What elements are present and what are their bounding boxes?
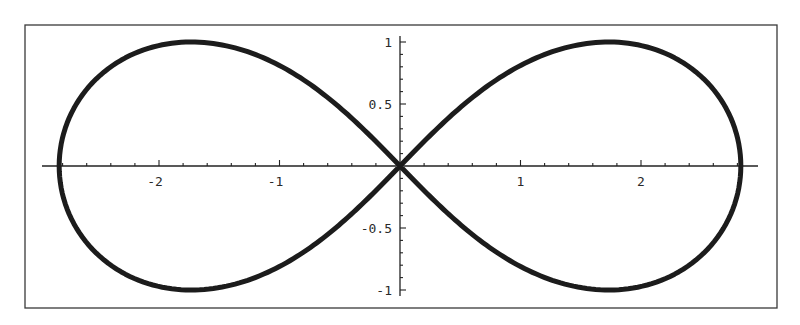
lemniscate-plot: -2-112 -1-0.50.51 bbox=[0, 0, 800, 325]
x-tick-label: 1 bbox=[517, 174, 525, 189]
chart-container: -2-112 -1-0.50.51 bbox=[0, 0, 800, 325]
x-tick-label: 2 bbox=[637, 174, 645, 189]
y-tick-label: -1 bbox=[376, 283, 392, 298]
x-axis-tick-labels: -2-112 bbox=[147, 174, 645, 189]
y-tick-label: -0.5 bbox=[361, 221, 392, 236]
y-tick-label: 1 bbox=[384, 35, 392, 50]
x-tick-label: -2 bbox=[147, 174, 163, 189]
y-tick-label: 0.5 bbox=[369, 97, 392, 112]
x-tick-label: -1 bbox=[268, 174, 284, 189]
